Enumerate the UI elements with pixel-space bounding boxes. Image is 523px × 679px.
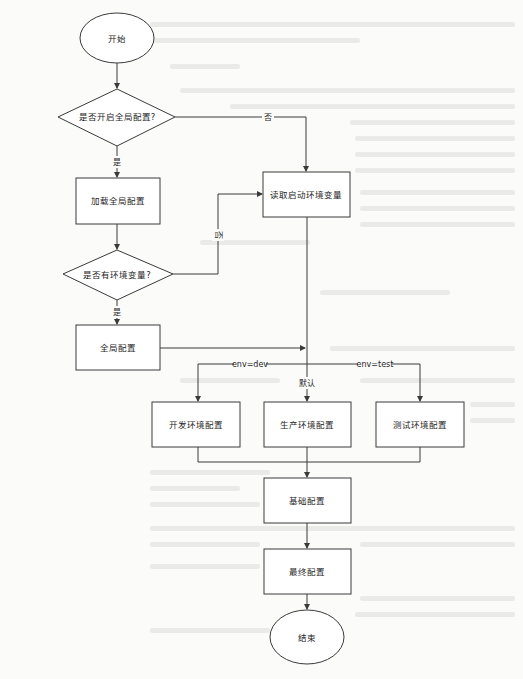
node-decision-global-label: 是否开启全局配置?: [79, 112, 156, 122]
node-decision-env-label: 是否有环境变量?: [83, 270, 151, 280]
node-decision-env: 是否有环境变量?: [63, 250, 173, 300]
node-start-label: 开始: [108, 34, 126, 44]
node-dev-config-label: 开发环境配置: [169, 420, 223, 430]
node-base-config: 基础配置: [264, 478, 351, 523]
node-base-config-label: 基础配置: [289, 496, 325, 506]
edge-decision-no: [175, 117, 306, 171]
edge-label-global-yes: 是: [113, 158, 121, 167]
node-prod-config: 生产环境配置: [264, 402, 351, 447]
edge-label-env-no: 否: [214, 231, 223, 239]
node-global-config: 全局配置: [76, 325, 160, 370]
node-read-env: 读取启动环境变量: [263, 172, 350, 217]
node-final-config-label: 最终配置: [289, 567, 325, 577]
node-test-config: 测试环境配置: [376, 402, 464, 447]
edge-label-default: 默认: [299, 378, 315, 388]
node-end-label: 结束: [298, 633, 316, 643]
node-end: 结束: [270, 610, 344, 664]
edge-label-global-no: 否: [264, 113, 272, 122]
edge-label-env-yes: 是: [113, 308, 121, 317]
node-read-env-label: 读取启动环境变量: [270, 190, 342, 200]
edge-label-env-dev: env=dev: [232, 360, 268, 369]
edge-env-test: [307, 364, 420, 401]
node-load-global-label: 加载全局配置: [91, 196, 145, 206]
edge-merge: [198, 447, 420, 462]
edge-label-env-test: env=test: [357, 360, 394, 369]
node-start: 开始: [80, 13, 154, 63]
node-dev-config: 开发环境配置: [152, 402, 240, 447]
node-prod-config-label: 生产环境配置: [280, 420, 334, 430]
edge-env-dev: [198, 364, 307, 401]
flowchart: 开始 是否开启全局配置? 加载全局配置 读取启动环境变量 是否有环境变量? 全局…: [0, 0, 523, 679]
node-load-global: 加载全局配置: [76, 178, 160, 224]
node-global-config-label: 全局配置: [100, 343, 136, 353]
node-decision-global: 是否开启全局配置?: [58, 89, 175, 146]
node-test-config-label: 测试环境配置: [393, 420, 447, 430]
node-final-config: 最终配置: [264, 549, 351, 594]
